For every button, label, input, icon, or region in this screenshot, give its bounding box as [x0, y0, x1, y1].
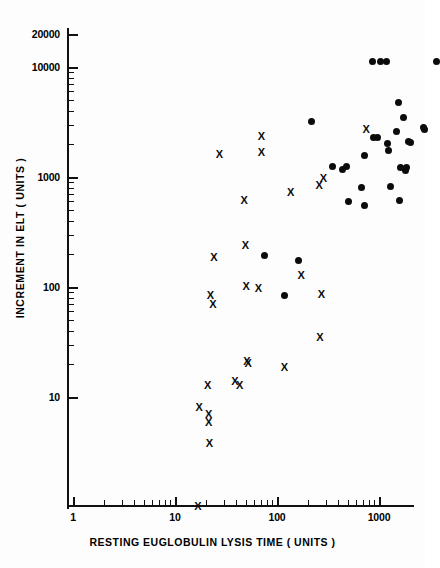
- y-axis-title: INCREMENT IN ELT ( UNITS ): [14, 123, 26, 353]
- data-point-cross: X: [235, 380, 244, 391]
- data-point-dot: [374, 134, 381, 141]
- data-point-dot: [345, 198, 352, 205]
- data-point-dot: [387, 183, 394, 190]
- data-point-cross: X: [280, 362, 289, 373]
- data-point-cross: X: [241, 240, 250, 251]
- data-point-dot: [403, 164, 410, 171]
- data-point-cross: X: [286, 187, 295, 198]
- x-tick-label: 100: [247, 512, 307, 523]
- data-point-cross: X: [317, 289, 326, 300]
- data-point-dot: [433, 58, 440, 65]
- data-point-cross: X: [254, 283, 263, 294]
- x-axis-title: RESTING EUGLOBULIN LYSIS TIME ( UNITS ): [0, 536, 425, 548]
- data-point-cross: X: [195, 402, 204, 413]
- data-point-cross: X: [205, 438, 214, 449]
- data-point-cross: X: [203, 380, 212, 391]
- y-tick-label: 1000: [0, 172, 60, 183]
- data-point-dot: [308, 118, 315, 125]
- data-point-dot: [400, 114, 407, 121]
- data-point-dot: [385, 147, 392, 154]
- data-point-cross: X: [209, 299, 218, 310]
- data-point-cross: X: [244, 358, 253, 369]
- data-point-dot: [295, 257, 302, 264]
- data-point-dot: [383, 58, 390, 65]
- data-point-cross: X: [257, 147, 266, 158]
- data-point-dot: [358, 184, 365, 191]
- data-point-dot: [343, 163, 350, 170]
- data-point-cross: X: [204, 417, 213, 428]
- data-point-dot: [396, 197, 403, 204]
- data-point-cross: X: [297, 270, 306, 281]
- data-point-dot: [393, 128, 400, 135]
- x-tick-label: 10: [145, 512, 205, 523]
- data-point-cross: X: [257, 131, 266, 142]
- data-point-dot: [261, 252, 268, 259]
- plot-area: XXXXXXXXXXXXXXXXXXXXXXXXXXXX: [67, 28, 414, 507]
- data-point-cross: X: [215, 149, 224, 160]
- data-point-dot: [421, 126, 428, 133]
- x-tick-label: 1: [43, 512, 103, 523]
- data-point-cross: X: [315, 332, 324, 343]
- data-point-dot: [329, 163, 336, 170]
- data-point-cross: X: [240, 195, 249, 206]
- data-point-cross: X: [209, 252, 218, 263]
- y-tick-label: 100: [0, 282, 60, 293]
- data-point-cross: X: [242, 281, 251, 292]
- y-tick-label: 10000: [0, 62, 60, 73]
- y-tick-label: 10: [0, 392, 60, 403]
- data-point-dot: [369, 58, 376, 65]
- data-point-dot: [407, 139, 414, 146]
- data-point-cross: X: [193, 501, 202, 512]
- data-point-dot: [395, 99, 402, 106]
- data-point-cross: X: [362, 124, 371, 135]
- data-point-dot: [361, 152, 368, 159]
- data-point-dot: [281, 292, 288, 299]
- data-point-dot: [384, 140, 391, 147]
- data-point-dot: [361, 202, 368, 209]
- y-tick-label: 20000: [0, 29, 60, 40]
- data-point-cross: X: [319, 173, 328, 184]
- x-tick-label: 1000: [349, 512, 409, 523]
